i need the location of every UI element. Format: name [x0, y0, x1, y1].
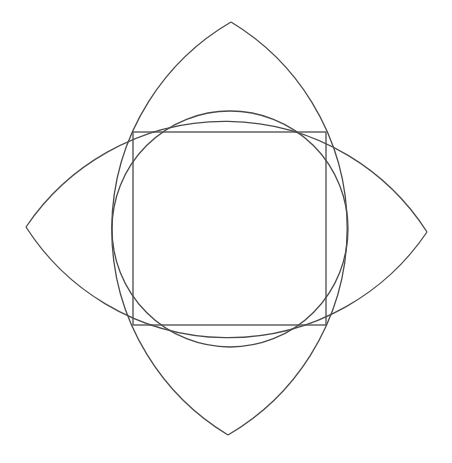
horizontal-lens-bottom-arc: [26, 227, 427, 338]
vertical-lens-left-arc: [112, 22, 231, 435]
square: [133, 132, 326, 325]
horizontal-lens-top-arc: [26, 121, 427, 232]
geometric-diagram: [0, 0, 452, 463]
vertical-lens-right-arc: [228, 22, 347, 435]
circle: [112, 111, 348, 347]
